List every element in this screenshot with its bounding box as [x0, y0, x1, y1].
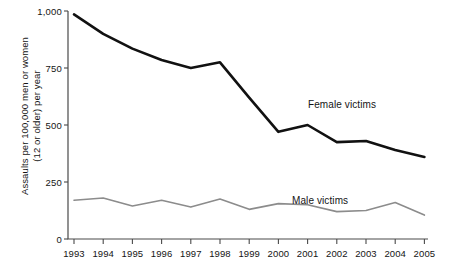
series-line-female-victims: [74, 14, 424, 157]
series-line-male-victims: [74, 198, 424, 215]
chart-container: Assaults per 100,000 men or women (12 or…: [0, 0, 454, 275]
chart-plot-area: [0, 0, 454, 275]
y-axis-tick-label: 250: [20, 177, 62, 188]
axis-spine: [68, 11, 428, 239]
y-axis-tick-label: 1,000: [20, 6, 62, 17]
y-axis-tick-label: 500: [20, 120, 62, 131]
x-axis-tick-label: 2005: [404, 248, 444, 259]
y-axis-tick-label: 0: [20, 234, 62, 245]
series-annotation-female-victims: Female victims: [308, 99, 376, 110]
series-annotation-male-victims: Male victims: [292, 195, 348, 206]
y-axis-tick-label: 750: [20, 63, 62, 74]
